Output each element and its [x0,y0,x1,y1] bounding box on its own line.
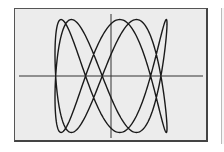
lissajous-plot [0,0,224,152]
